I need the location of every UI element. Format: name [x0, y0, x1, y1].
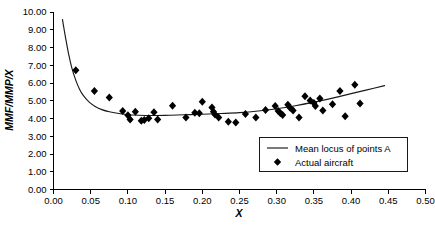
x-axis-ticks — [54, 190, 426, 194]
y-tick-label: 5.00 — [28, 95, 47, 106]
data-point — [262, 106, 269, 114]
data-point — [301, 92, 308, 100]
y-axis-ticks — [50, 12, 54, 190]
scatter-plot: 0.001.002.003.004.005.006.007.008.009.00… — [0, 0, 435, 227]
data-point — [351, 81, 358, 89]
y-tick-label: 1.00 — [28, 166, 47, 177]
data-point — [232, 118, 239, 126]
chart-legend: Mean locus of points A Actual aircraft — [260, 138, 408, 172]
data-point — [319, 107, 326, 115]
data-point — [169, 102, 176, 110]
data-point — [106, 94, 113, 102]
x-tick-label: 0.25 — [230, 195, 249, 206]
data-point — [199, 98, 206, 106]
data-point — [225, 118, 232, 126]
x-axis-tick-labels: 0.000.050.100.150.200.250.300.350.400.45… — [44, 195, 435, 206]
legend-label-mean-locus: Mean locus of points A — [295, 143, 391, 154]
x-tick-label: 0.30 — [267, 195, 286, 206]
y-tick-label: 6.00 — [28, 77, 47, 88]
x-axis-title: X — [234, 207, 243, 219]
data-point — [196, 109, 203, 117]
x-tick-label: 0.45 — [379, 195, 398, 206]
data-point — [295, 114, 302, 122]
y-tick-label: 2.00 — [28, 148, 47, 159]
data-point — [342, 112, 349, 120]
x-tick-label: 0.10 — [119, 195, 138, 206]
x-tick-label: 0.20 — [193, 195, 212, 206]
data-point — [154, 115, 161, 123]
x-tick-label: 0.50 — [416, 195, 435, 206]
x-tick-label: 0.35 — [305, 195, 324, 206]
x-tick-label: 0.05 — [81, 195, 100, 206]
y-tick-label: 9.00 — [28, 24, 47, 35]
chart-figure: 0.001.002.003.004.005.006.007.008.009.00… — [0, 0, 435, 227]
actual-aircraft-points — [72, 66, 363, 126]
y-tick-label: 8.00 — [28, 42, 47, 53]
y-axis-title: MMF/MMP/X — [3, 68, 15, 130]
data-point — [242, 110, 249, 118]
data-point — [329, 100, 336, 108]
data-point — [252, 114, 259, 122]
x-tick-label: 0.15 — [156, 195, 175, 206]
data-point — [356, 99, 363, 107]
y-tick-label: 0.00 — [28, 184, 47, 195]
legend-label-actual-aircraft: Actual aircraft — [295, 157, 353, 168]
y-tick-label: 10.00 — [23, 6, 47, 17]
x-tick-label: 0.00 — [44, 195, 63, 206]
x-tick-label: 0.40 — [342, 195, 361, 206]
y-axis-tick-labels: 0.001.002.003.004.005.006.007.008.009.00… — [23, 6, 47, 195]
y-tick-label: 7.00 — [28, 60, 47, 71]
mean-locus-curve — [62, 19, 384, 115]
data-point — [91, 87, 98, 95]
data-point — [336, 87, 343, 95]
y-tick-label: 4.00 — [28, 113, 47, 124]
y-tick-label: 3.00 — [28, 131, 47, 142]
